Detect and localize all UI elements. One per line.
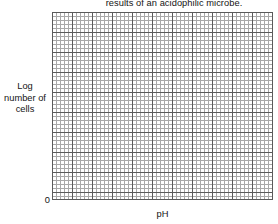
plot-frame-right-edge — [272, 12, 273, 200]
y-axis-label-line-3: cells — [0, 104, 50, 116]
y-axis-label-line-1: Log — [0, 81, 50, 93]
plot-grid-area — [52, 12, 273, 200]
origin-tick-label: 0 — [39, 195, 50, 206]
y-axis-label-line-2: number of — [0, 93, 50, 105]
x-axis-label: pH — [52, 209, 273, 220]
y-axis-label: Log number of cells — [0, 81, 50, 116]
plot-frame-bottom-edge — [52, 199, 273, 200]
figure-container: results of an acidophilic microbe. Log n… — [0, 0, 278, 224]
chart-title: results of an acidophilic microbe. — [78, 0, 270, 9]
